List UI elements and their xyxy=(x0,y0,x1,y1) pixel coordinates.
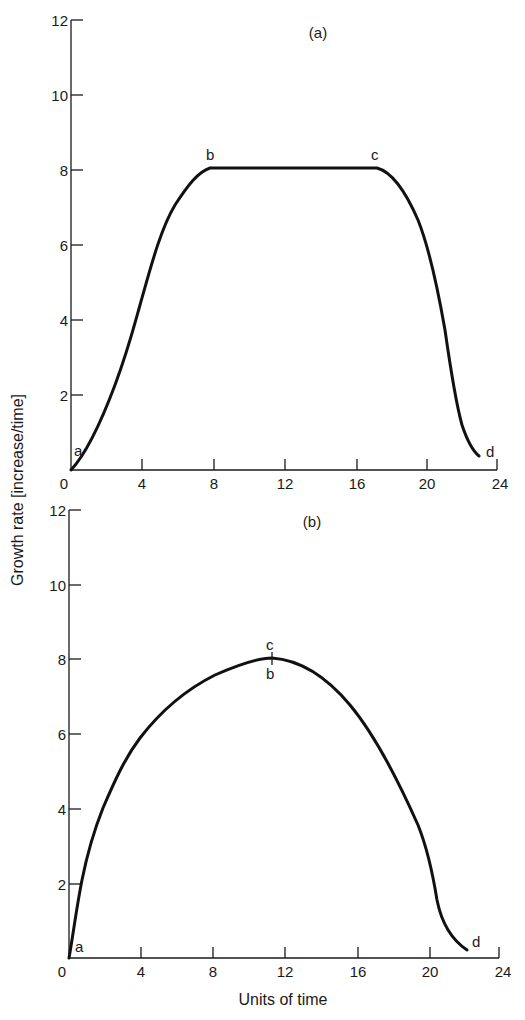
panel-b-xtick-4: 4 xyxy=(137,963,145,980)
panel-a-point-a: a xyxy=(74,442,83,459)
panel-a-ytick-8: 8 xyxy=(60,162,68,179)
panel-b-y-ticks: 12 10 8 6 4 2 xyxy=(49,502,81,893)
panel-b-xtick-12: 12 xyxy=(277,963,294,980)
panel-a-ytick-6: 6 xyxy=(60,237,68,254)
panel-a-ytick-12: 12 xyxy=(51,12,68,29)
panel-a-y-ticks: 12 10 8 6 4 2 xyxy=(51,12,83,404)
panel-a-xtick-8: 8 xyxy=(210,475,218,492)
panel-b-xtick-8: 8 xyxy=(209,963,217,980)
panel-b-ytick-12: 12 xyxy=(49,502,66,519)
panel-b-x-ticks: 0 4 8 12 16 20 24 xyxy=(58,947,512,980)
panel-a-xtick-12: 12 xyxy=(277,475,294,492)
panel-b-growth-curve xyxy=(69,658,467,958)
panel-b-ytick-6: 6 xyxy=(58,726,66,743)
panel-a-ytick-4: 4 xyxy=(60,312,68,329)
panel-b-point-d: d xyxy=(472,933,480,950)
panel-b-point-b: b xyxy=(266,665,274,682)
panel-b-ytick-2: 2 xyxy=(58,876,66,893)
panel-a-xtick-20: 20 xyxy=(419,475,436,492)
panel-a-ytick-2: 2 xyxy=(60,387,68,404)
panel-b-ytick-4: 4 xyxy=(58,801,66,818)
panel-a-xtick-4: 4 xyxy=(138,475,146,492)
growth-rate-figure: Growth rate [increase/time] (a) 12 10 8 … xyxy=(0,0,525,1020)
panel-b-point-a: a xyxy=(75,938,84,955)
x-axis-title: Units of time xyxy=(239,991,328,1008)
panel-b-xtick-0: 0 xyxy=(58,963,66,980)
panel-b-xtick-20: 20 xyxy=(422,963,439,980)
panel-a-xtick-0: 0 xyxy=(60,475,68,492)
panel-a: (a) 12 10 8 6 4 2 0 4 xyxy=(51,12,508,492)
panel-a-ytick-10: 10 xyxy=(51,87,68,104)
panel-b-point-c: c xyxy=(266,636,274,653)
panel-a-point-b: b xyxy=(206,146,214,163)
panel-a-point-d: d xyxy=(486,443,494,460)
panel-b-xtick-24: 24 xyxy=(495,963,512,980)
panel-a-xtick-24: 24 xyxy=(492,475,509,492)
y-axis-title: Growth rate [increase/time] xyxy=(9,394,26,586)
panel-b-xtick-16: 16 xyxy=(350,963,367,980)
panel-b-ytick-8: 8 xyxy=(58,651,66,668)
panel-a-x-ticks: 0 4 8 12 16 20 24 xyxy=(60,459,509,492)
panel-b-ytick-10: 10 xyxy=(49,577,66,594)
panel-a-point-c: c xyxy=(371,146,379,163)
panel-a-title: (a) xyxy=(309,24,327,41)
panel-b-title: (b) xyxy=(303,513,321,530)
panel-a-xtick-16: 16 xyxy=(349,475,366,492)
panel-b: (b) 12 10 8 6 4 2 0 4 xyxy=(49,502,511,1008)
panel-a-growth-curve xyxy=(71,168,479,470)
